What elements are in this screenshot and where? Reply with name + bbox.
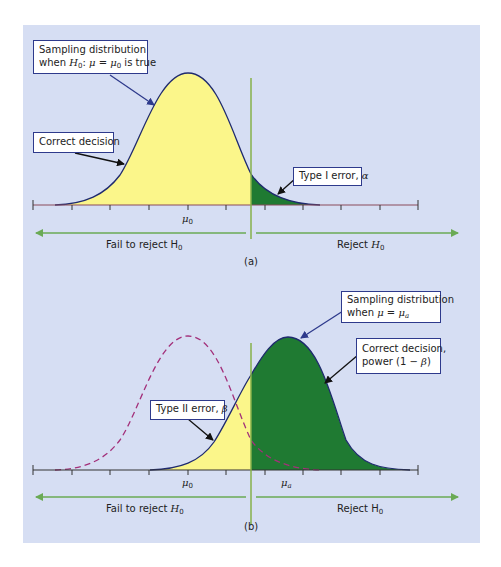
pointer-null-dist	[110, 75, 154, 105]
label-power-line1: Correct decision,	[362, 343, 435, 356]
caption-a: (a)	[244, 256, 258, 267]
label-null-dist-line2: when H0: μ = μ0 is true	[39, 57, 142, 73]
label-type2-error: Type II error, β	[150, 400, 225, 420]
label-alt-dist-line2: when μ = μa	[347, 307, 435, 323]
caption-b: (b)	[244, 521, 258, 532]
region-label-fail-to-reject-b: Fail to reject H0	[106, 503, 184, 516]
axis-label-mu0-b: μ0	[182, 477, 193, 490]
label-power: Correct decision, power (1 − β)	[356, 338, 441, 374]
label-correct-decision: Correct decision	[33, 132, 114, 153]
label-type1-error: Type I error, α	[293, 167, 362, 186]
pointer-alt-dist	[301, 311, 343, 338]
region-label-reject-b: Reject H0	[337, 503, 383, 516]
figure-graphics	[0, 0, 501, 567]
pointer-type2	[188, 419, 213, 440]
label-power-line2: power (1 − β)	[362, 356, 435, 369]
region-label-fail-to-reject-a: Fail to reject H0	[106, 239, 183, 252]
pointer-correct-decision	[75, 153, 124, 164]
panel-a-plot	[33, 73, 458, 239]
axis-label-mua-b: μa	[281, 477, 292, 490]
label-alt-distribution: Sampling distribution when μ = μa	[341, 291, 441, 323]
label-null-dist-line1: Sampling distribution	[39, 44, 142, 57]
axis-label-mu0-a: μ0	[182, 213, 193, 226]
region-label-reject-a: Reject H0	[337, 239, 384, 252]
pointer-power	[325, 355, 358, 383]
label-null-distribution: Sampling distribution when H0: μ = μ0 is…	[33, 40, 148, 74]
label-alt-dist-line1: Sampling distribution	[347, 294, 435, 307]
